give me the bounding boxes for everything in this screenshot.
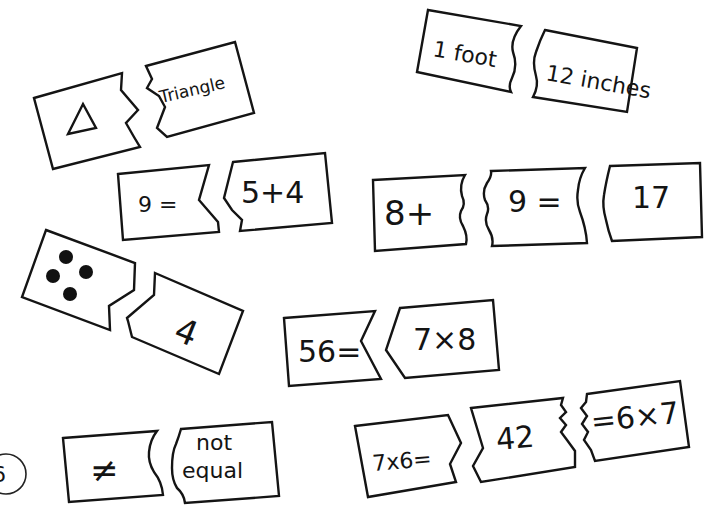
pair-not-equal: ≠ not equal xyxy=(63,422,279,503)
label-seventeen: 17 xyxy=(632,180,670,215)
label-five-plus-four: 5+4 xyxy=(241,175,304,210)
label-not: not xyxy=(196,430,232,455)
pair-fifty-six: 56= 7×8 xyxy=(284,300,499,386)
pair-foot: 1 foot 12 inches xyxy=(417,10,653,112)
worksheet-canvas: Triangle 1 foot 12 inches 9 = 5+4 8+ 9 =… xyxy=(0,0,720,523)
piece-triangle-symbol[interactable] xyxy=(34,73,140,169)
pair-dots: 4 xyxy=(22,230,243,374)
piece-four-dots[interactable] xyxy=(22,230,135,330)
pair-triangle: Triangle xyxy=(34,42,254,169)
label-seven-times-six: 7x6= xyxy=(371,446,432,476)
label-equal: equal xyxy=(182,458,243,483)
label-forty-two: 42 xyxy=(495,419,536,457)
label-not-equal-symbol: ≠ xyxy=(90,450,119,490)
pair-nine: 9 = 5+4 xyxy=(118,153,332,240)
page-number-label: 6 xyxy=(0,462,6,487)
triple-sum: 8+ 9 = 17 xyxy=(373,163,702,251)
page-number-mark: 6 xyxy=(0,454,26,494)
label-eight-plus: 8+ xyxy=(384,193,434,233)
label-nine-equals-b: 9 = xyxy=(508,184,562,219)
label-fifty-six-equals: 56= xyxy=(298,334,361,369)
label-nine-equals: 9 = xyxy=(138,192,177,217)
triple-forty-two: 7x6= 42 =6×7 xyxy=(355,381,689,497)
label-seven-times-eight: 7×8 xyxy=(413,322,476,357)
